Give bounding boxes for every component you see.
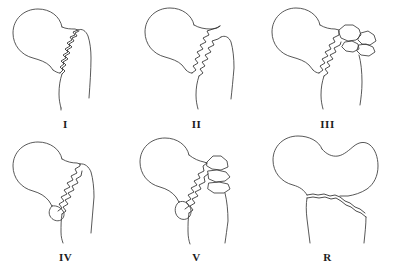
femur-diagram-6: [262, 133, 393, 245]
fracture-panel-5: V: [131, 133, 262, 265]
panel-label-4: IV: [0, 251, 131, 263]
panel-label-5: V: [131, 251, 262, 263]
fracture-panel-6: R: [262, 133, 393, 265]
fracture-panel-2: II: [131, 0, 262, 132]
femur-diagram-3: [262, 0, 393, 112]
fracture-panel-1: I: [0, 0, 131, 132]
fracture-panel-4: IV: [0, 133, 131, 265]
femur-diagram-4: [0, 133, 131, 245]
femur-diagram-1: [0, 0, 131, 112]
panel-label-2: II: [131, 118, 262, 130]
femur-diagram-2: [131, 0, 262, 112]
panel-label-3: III: [262, 118, 393, 130]
femur-diagram-5: [131, 133, 262, 245]
femur-fracture-classification-figure: I II: [0, 0, 394, 265]
panel-label-1: I: [0, 118, 131, 130]
panel-label-6: R: [262, 251, 393, 263]
fracture-panel-3: III: [262, 0, 393, 132]
